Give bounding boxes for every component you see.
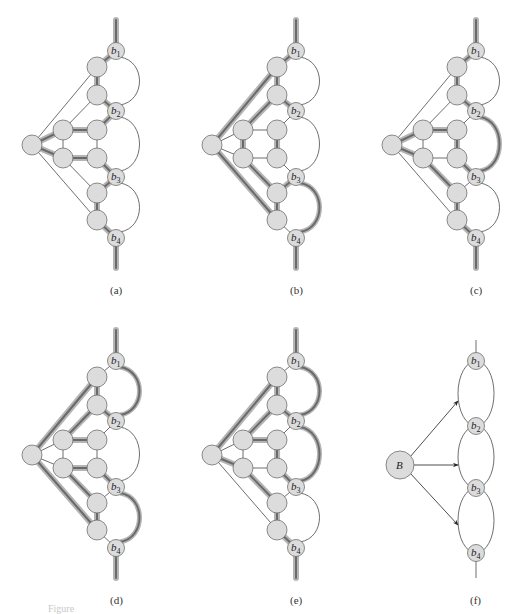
- panel-f: Bb1b2b3b4(f): [386, 340, 494, 607]
- node-t2: [447, 85, 467, 105]
- node-rl: [87, 458, 107, 478]
- arrow-to-loop-1: [410, 401, 458, 457]
- loop-2: [458, 426, 494, 488]
- panel-a: b1b2b3b4(a): [22, 20, 140, 297]
- loop-3: [458, 488, 494, 553]
- node-lu: [53, 430, 73, 450]
- node-d2: [87, 210, 107, 230]
- node-d2: [267, 210, 287, 230]
- panel-label-f: (f): [470, 594, 481, 607]
- node-rl: [267, 458, 287, 478]
- panel-label-e: (e): [290, 594, 303, 607]
- node-t1: [267, 57, 287, 77]
- node-ru: [87, 430, 107, 450]
- node-t1: [267, 367, 287, 387]
- node-r: [22, 445, 42, 465]
- panel-label-c: (c): [470, 284, 483, 297]
- node-d2: [87, 520, 107, 540]
- node-r: [202, 445, 222, 465]
- panel-d: b1b2b3b4(d): [22, 330, 140, 607]
- node-d1: [267, 493, 287, 513]
- node-d1: [87, 183, 107, 203]
- node-ll: [53, 458, 73, 478]
- node-t2: [87, 395, 107, 415]
- node-ll: [53, 148, 73, 168]
- node-t1: [447, 57, 467, 77]
- node-t1: [87, 367, 107, 387]
- node-d1: [87, 493, 107, 513]
- loop-1: [458, 361, 494, 426]
- node-r: [382, 135, 402, 155]
- node-t1: [87, 57, 107, 77]
- node-ru: [87, 120, 107, 140]
- node-d2: [267, 520, 287, 540]
- node-ru: [447, 120, 467, 140]
- node-ll: [413, 148, 433, 168]
- arrow-to-loop-3: [410, 473, 458, 525]
- node-ru: [267, 120, 287, 140]
- node-r: [202, 135, 222, 155]
- node-ll: [233, 148, 253, 168]
- node-rl: [87, 148, 107, 168]
- node-ll: [233, 458, 253, 478]
- panel-b: b1b2b3b4(b): [202, 20, 320, 297]
- node-lu: [413, 120, 433, 140]
- panel-c: b1b2b3b4(c): [382, 20, 500, 297]
- node-lu: [233, 120, 253, 140]
- panel-label-d: (d): [110, 594, 123, 607]
- node-rl: [267, 148, 287, 168]
- node-lu: [233, 430, 253, 450]
- figure-canvas: b1b2b3b4(a)b1b2b3b4(b)b1b2b3b4(c)b1b2b3b…: [0, 0, 514, 614]
- node-d2: [447, 210, 467, 230]
- panel-e: b1b2b3b4(e): [202, 330, 320, 607]
- node-ru: [267, 430, 287, 450]
- node-d1: [267, 183, 287, 203]
- node-rl: [447, 148, 467, 168]
- node-d1: [447, 183, 467, 203]
- node-t2: [87, 85, 107, 105]
- node-t2: [267, 85, 287, 105]
- figure-caption: Figure: [48, 603, 74, 614]
- panel-label-b: (b): [290, 284, 303, 297]
- panel-label-a: (a): [110, 284, 123, 297]
- node-lu: [53, 120, 73, 140]
- node-label-B: B: [396, 459, 403, 471]
- node-t2: [267, 395, 287, 415]
- node-r: [22, 135, 42, 155]
